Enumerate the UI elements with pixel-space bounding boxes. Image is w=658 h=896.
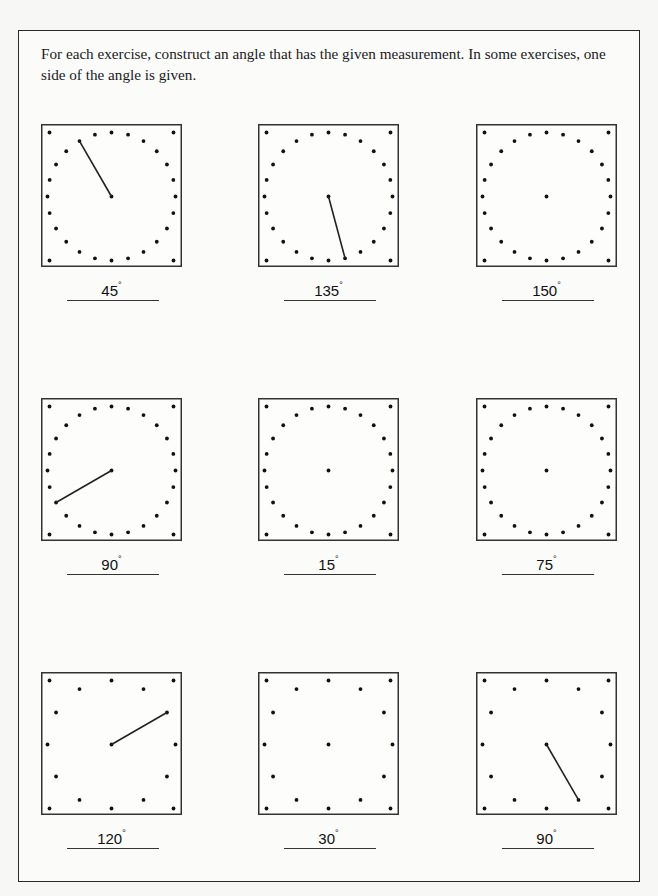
circle-dot[interactable]: [382, 711, 386, 715]
circle-dot[interactable]: [590, 423, 594, 427]
circle-dot[interactable]: [481, 469, 485, 473]
corner-dot[interactable]: [48, 533, 52, 537]
circle-dot[interactable]: [271, 775, 275, 779]
circle-dot[interactable]: [499, 149, 503, 153]
circle-dot[interactable]: [391, 743, 395, 747]
circle-dot[interactable]: [54, 227, 58, 231]
circle-dot[interactable]: [600, 775, 604, 779]
circle-dot[interactable]: [310, 133, 314, 137]
circle-dot[interactable]: [590, 240, 594, 244]
circle-dot[interactable]: [391, 195, 395, 199]
circle-dot[interactable]: [606, 178, 610, 182]
circle-dot[interactable]: [78, 413, 82, 417]
dot-grid-box[interactable]: [41, 124, 182, 267]
circle-dot[interactable]: [54, 711, 58, 715]
circle-dot[interactable]: [577, 139, 581, 143]
corner-dot[interactable]: [48, 405, 52, 409]
circle-dot[interactable]: [388, 178, 392, 182]
dot-grid-box[interactable]: [476, 124, 617, 267]
corner-dot[interactable]: [265, 533, 269, 537]
circle-dot[interactable]: [64, 149, 68, 153]
corner-dot[interactable]: [48, 807, 52, 811]
corner-dot[interactable]: [265, 679, 269, 683]
circle-dot[interactable]: [513, 250, 517, 254]
dot-grid-box[interactable]: [41, 398, 182, 541]
corner-dot[interactable]: [389, 259, 393, 263]
circle-dot[interactable]: [93, 407, 97, 411]
circle-dot[interactable]: [513, 798, 517, 802]
circle-dot[interactable]: [295, 798, 299, 802]
circle-dot[interactable]: [281, 149, 285, 153]
circle-dot[interactable]: [382, 437, 386, 441]
circle-dot[interactable]: [489, 437, 493, 441]
circle-dot[interactable]: [78, 524, 82, 528]
dot-grid-box[interactable]: [258, 124, 399, 267]
circle-dot[interactable]: [388, 211, 392, 215]
circle-dot[interactable]: [126, 530, 130, 534]
corner-dot[interactable]: [607, 533, 611, 537]
vertex-dot[interactable]: [545, 195, 549, 199]
circle-dot[interactable]: [165, 501, 169, 505]
circle-dot[interactable]: [271, 227, 275, 231]
circle-dot[interactable]: [126, 407, 130, 411]
circle-dot[interactable]: [489, 775, 493, 779]
corner-dot[interactable]: [483, 679, 487, 683]
circle-dot[interactable]: [545, 131, 549, 135]
circle-dot[interactable]: [271, 501, 275, 505]
circle-dot[interactable]: [391, 469, 395, 473]
circle-dot[interactable]: [513, 139, 517, 143]
circle-dot[interactable]: [110, 679, 114, 683]
circle-dot[interactable]: [265, 452, 269, 456]
circle-dot[interactable]: [310, 256, 314, 260]
circle-dot[interactable]: [295, 413, 299, 417]
circle-dot[interactable]: [327, 405, 331, 409]
circle-dot[interactable]: [327, 131, 331, 135]
circle-dot[interactable]: [382, 163, 386, 167]
circle-dot[interactable]: [499, 423, 503, 427]
circle-dot[interactable]: [606, 452, 610, 456]
circle-dot[interactable]: [327, 533, 331, 537]
dot-grid-box[interactable]: [41, 672, 182, 815]
circle-dot[interactable]: [359, 139, 363, 143]
circle-dot[interactable]: [609, 743, 613, 747]
circle-dot[interactable]: [489, 227, 493, 231]
circle-dot[interactable]: [93, 530, 97, 534]
circle-dot[interactable]: [155, 514, 159, 518]
circle-dot[interactable]: [171, 452, 175, 456]
circle-dot[interactable]: [263, 743, 267, 747]
corner-dot[interactable]: [48, 679, 52, 683]
circle-dot[interactable]: [271, 437, 275, 441]
circle-dot[interactable]: [359, 524, 363, 528]
circle-dot[interactable]: [489, 501, 493, 505]
circle-dot[interactable]: [600, 437, 604, 441]
corner-dot[interactable]: [172, 807, 176, 811]
circle-dot[interactable]: [174, 469, 178, 473]
circle-dot[interactable]: [54, 163, 58, 167]
circle-dot[interactable]: [590, 149, 594, 153]
circle-dot[interactable]: [126, 256, 130, 260]
circle-dot[interactable]: [388, 452, 392, 456]
circle-dot[interactable]: [577, 413, 581, 417]
circle-dot[interactable]: [382, 501, 386, 505]
corner-dot[interactable]: [172, 259, 176, 263]
corner-dot[interactable]: [389, 405, 393, 409]
circle-dot[interactable]: [110, 405, 114, 409]
circle-dot[interactable]: [561, 256, 565, 260]
circle-dot[interactable]: [265, 211, 269, 215]
circle-dot[interactable]: [165, 437, 169, 441]
circle-dot[interactable]: [142, 250, 146, 254]
circle-dot[interactable]: [372, 514, 376, 518]
circle-dot[interactable]: [545, 807, 549, 811]
dot-grid-box[interactable]: [476, 398, 617, 541]
circle-dot[interactable]: [499, 240, 503, 244]
circle-dot[interactable]: [489, 163, 493, 167]
circle-dot[interactable]: [48, 178, 52, 182]
circle-dot[interactable]: [310, 530, 314, 534]
circle-dot[interactable]: [327, 807, 331, 811]
circle-dot[interactable]: [545, 533, 549, 537]
circle-dot[interactable]: [561, 530, 565, 534]
corner-dot[interactable]: [389, 533, 393, 537]
circle-dot[interactable]: [46, 195, 50, 199]
circle-dot[interactable]: [359, 413, 363, 417]
circle-dot[interactable]: [165, 163, 169, 167]
